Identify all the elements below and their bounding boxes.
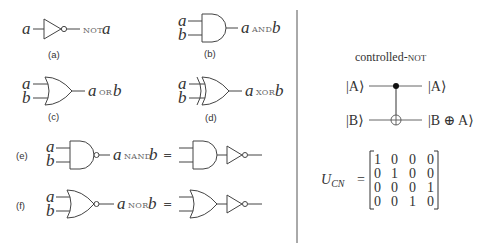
right-bracket-icon xyxy=(434,151,438,209)
and-out-b: b xyxy=(272,18,281,37)
matrix-row-3: 0 0 1 0 xyxy=(374,194,434,209)
caption-d: (d) xyxy=(205,112,217,123)
and-op-label: AND xyxy=(251,25,272,34)
nor-out-b: b xyxy=(148,194,157,213)
not-bubble-icon xyxy=(61,26,66,31)
nor-equals: = xyxy=(163,198,172,211)
nor-equiv-not-icon xyxy=(227,195,242,213)
svg-text:1: 1 xyxy=(374,152,381,167)
cnot-title: controlled-NOT xyxy=(355,50,427,64)
logic-gates-diagram: a NOT a (a) a b a AND b (b) a b a OR b (… xyxy=(0,0,494,250)
not-gate-figure: a NOT a (a) xyxy=(22,19,111,60)
cnot-input-top: |A⟩ xyxy=(346,79,364,94)
nand-equals: = xyxy=(163,149,172,162)
svg-text:0: 0 xyxy=(374,166,381,181)
caption-e: (e) xyxy=(16,150,28,161)
nand-equiv-not-icon xyxy=(227,146,242,164)
cnot-circuit: controlled-NOT |A⟩ |B⟩ |A⟩ |B ⊕ A⟩ xyxy=(346,50,474,128)
xor-out-b: b xyxy=(275,81,284,100)
xor-out-a: a xyxy=(245,81,254,100)
and-gate-figure: a b a AND b (b) xyxy=(178,11,281,59)
cnot-output-top: |A⟩ xyxy=(428,79,446,94)
nand-bubble-icon xyxy=(94,153,99,158)
svg-text:0: 0 xyxy=(409,180,416,195)
nand-equiv-and-icon xyxy=(193,141,217,169)
and-input-b: b xyxy=(178,25,187,44)
svg-text:0: 0 xyxy=(409,166,416,181)
or-op-label: OR xyxy=(99,88,113,97)
nor-out-a: a xyxy=(117,194,126,213)
or-out-b: b xyxy=(113,81,122,100)
svg-text:0: 0 xyxy=(374,180,381,195)
cnot-matrix: UCN = 1 0 0 0 0 1 0 0 0 0 0 1 0 0 1 0 xyxy=(321,151,438,209)
svg-text:0: 0 xyxy=(391,152,398,167)
and-gate-icon xyxy=(202,14,226,42)
svg-text:0: 0 xyxy=(374,194,381,209)
nor-equiv-or-icon xyxy=(190,190,217,218)
not-op-label: NOT xyxy=(83,26,103,35)
caption-b: (b) xyxy=(204,48,216,59)
xor-op-label: XOR xyxy=(256,88,276,97)
caption-c: (c) xyxy=(48,111,59,122)
nor-op-label: NOR xyxy=(128,201,149,210)
svg-text:1: 1 xyxy=(391,166,398,181)
svg-text:0: 0 xyxy=(427,166,434,181)
not-triangle-icon xyxy=(44,19,61,39)
xor-gate-icon xyxy=(202,77,229,105)
svg-text:0: 0 xyxy=(427,194,434,209)
or-out-a: a xyxy=(88,81,97,100)
xor-extra-arc-icon xyxy=(197,77,201,105)
caption-a: (a) xyxy=(48,49,60,60)
or-gate-icon xyxy=(45,77,72,105)
nand-gate-icon xyxy=(70,141,94,169)
or-gate-figure: a b a OR b (c) xyxy=(22,74,122,122)
not-output-var: a xyxy=(102,19,111,38)
caption-f: (f) xyxy=(16,200,25,211)
matrix-lhs: UCN xyxy=(321,172,346,189)
svg-text:0: 0 xyxy=(391,180,398,195)
svg-text:1: 1 xyxy=(427,180,434,195)
svg-text:0: 0 xyxy=(427,152,434,167)
cnot-output-bottom: |B ⊕ A⟩ xyxy=(428,113,474,128)
svg-text:0: 0 xyxy=(391,194,398,209)
nand-op-label: NAND xyxy=(124,152,151,161)
not-input-label: a xyxy=(22,19,31,38)
control-dot-icon xyxy=(393,83,399,89)
nand-out-a: a xyxy=(113,145,122,164)
nor-gate-figure: (f) a b a NOR b = xyxy=(16,187,262,220)
or-input-b: b xyxy=(22,88,31,107)
matrix-row-1: 0 1 0 0 xyxy=(374,166,434,181)
nand-gate-figure: (e) a b a NAND b = xyxy=(16,137,262,170)
nand-out-b: b xyxy=(149,145,158,164)
matrix-row-2: 0 0 0 1 xyxy=(374,180,434,195)
nand-input-b: b xyxy=(46,151,55,170)
cnot-input-bottom: |B⟩ xyxy=(346,113,364,128)
xor-input-b: b xyxy=(178,88,187,107)
svg-text:1: 1 xyxy=(409,194,416,209)
nor-bubble-icon xyxy=(94,202,99,207)
and-out-a: a xyxy=(241,18,250,37)
svg-text:0: 0 xyxy=(409,152,416,167)
matrix-row-0: 1 0 0 0 xyxy=(374,152,434,167)
matrix-equals: = xyxy=(357,172,365,187)
xor-gate-figure: a b a XOR b (d) xyxy=(178,74,284,123)
nor-input-b: b xyxy=(46,201,55,220)
nor-gate-icon xyxy=(67,190,94,218)
